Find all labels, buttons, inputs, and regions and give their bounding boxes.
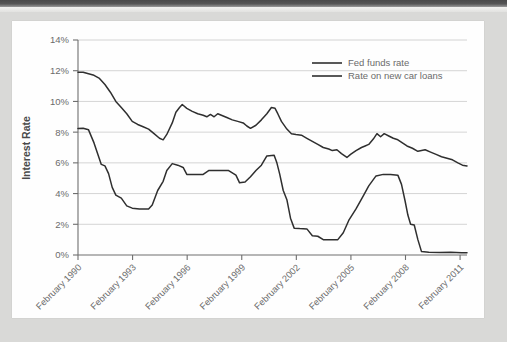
y-axis-tick-label: 14%	[50, 34, 70, 45]
figure-card: 0%2%4%6%8%10%12%14% February 1990Februar…	[12, 21, 484, 318]
x-axis-tick-label: February 2008	[362, 262, 411, 311]
legend-label: Rate on new car loans	[348, 70, 443, 81]
x-axis-tick-label: February 1990	[34, 262, 83, 311]
x-axis-tick-label: February 1996	[143, 262, 192, 311]
y-axis-tick-label: 0%	[55, 249, 69, 260]
y-axis-tick-labels: 0%2%4%6%8%10%12%14%	[50, 34, 70, 260]
x-axis-tick-label: February 2002	[252, 262, 301, 311]
y-axis-tick-label: 8%	[55, 127, 69, 138]
x-axis-tick-label: February 2005	[307, 262, 356, 311]
y-axis-tick-label: 6%	[55, 157, 69, 168]
line-chart: 0%2%4%6%8%10%12%14% February 1990Februar…	[12, 21, 484, 318]
y-axis-tick-label: 10%	[50, 96, 70, 107]
scanned-page: 0%2%4%6%8%10%12%14% February 1990Februar…	[0, 0, 507, 342]
y-axis-title: Interest Rate	[20, 116, 32, 180]
legend-label: Fed funds rate	[348, 57, 409, 68]
chart-legend: Fed funds rateRate on new car loans	[312, 57, 443, 81]
x-axis-tick-label: February 2011	[417, 262, 466, 311]
x-axis-ticks	[78, 255, 460, 260]
scan-top-dark-band	[0, 0, 507, 7]
y-axis-tick-label: 12%	[50, 65, 70, 76]
x-axis-tick-label: February 1993	[89, 262, 138, 311]
y-axis-tick-label: 2%	[55, 219, 69, 230]
series-line-rate-on-new-car-loans	[78, 72, 467, 166]
y-axis-tick-label: 4%	[55, 188, 69, 199]
chart-svg: 0%2%4%6%8%10%12%14% February 1990Februar…	[12, 21, 484, 318]
x-axis-tick-label: February 1999	[198, 262, 247, 311]
scan-top-highlight-band	[0, 7, 507, 12]
x-axis-tick-labels: February 1990February 1993February 1996F…	[34, 262, 465, 311]
